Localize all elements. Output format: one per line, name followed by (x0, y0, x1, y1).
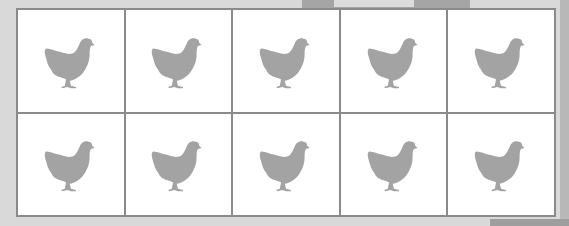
chicken-icon (40, 133, 102, 195)
grid-cell (126, 114, 232, 216)
grid-cell (448, 114, 554, 216)
chicken-icon (147, 133, 209, 195)
chicken-icon (147, 30, 209, 92)
chicken-icon (470, 133, 532, 195)
scan-bottom-shadow (490, 219, 569, 226)
grid-cell (18, 10, 124, 112)
scan-right-edge (560, 0, 569, 226)
chicken-icon (363, 133, 425, 195)
chicken-icon (40, 30, 102, 92)
grid-cell (233, 114, 339, 216)
grid-cell (126, 10, 232, 112)
chicken-grid (16, 8, 556, 217)
grid-cell (448, 10, 554, 112)
chicken-icon (470, 30, 532, 92)
grid-cell (233, 10, 339, 112)
scan-top-band-highlight (334, 0, 414, 7)
grid-cell (341, 114, 447, 216)
grid-cell (18, 114, 124, 216)
chicken-icon (255, 133, 317, 195)
chicken-icon (363, 30, 425, 92)
grid-cell (341, 10, 447, 112)
chicken-icon (255, 30, 317, 92)
